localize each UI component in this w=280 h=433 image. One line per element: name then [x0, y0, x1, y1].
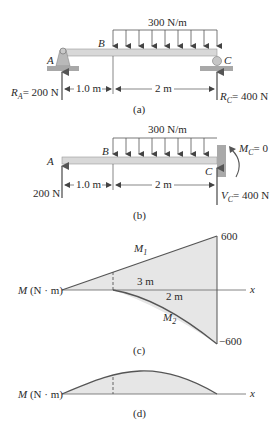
dim-ab-label: 1.0 m [76, 82, 102, 94]
moment-arc-icon [232, 150, 239, 177]
dim-ab-label-b: 1.0 m [76, 178, 102, 190]
dim-bc-label: 2 m [155, 82, 172, 94]
caption-a: (a) [133, 103, 146, 116]
figure-c: M1 M2 3 m 2 m 600 −600 M (N · m) x (c) [17, 230, 255, 357]
reaction-a-label: RA= 200 N [10, 86, 59, 101]
caption-d: (d) [133, 407, 146, 420]
figure-a: 300 N/m A B C RA= 200 N RC= 400 N [10, 16, 268, 116]
cut-section [217, 145, 226, 177]
point-a-label-b: A [46, 155, 54, 167]
distributed-load-arrows-b [113, 138, 217, 154]
point-b-label: B [98, 37, 105, 49]
point-c-label: C [224, 54, 232, 66]
min-value-label: −600 [219, 335, 242, 347]
beam [62, 49, 217, 56]
point-b-label-b: B [102, 145, 109, 157]
ground-c [200, 66, 233, 71]
length-3m-label: 3 m [137, 275, 154, 287]
length-2m-label: 2 m [166, 290, 183, 302]
max-value-label: 600 [221, 230, 238, 242]
axis-label-c: M (N · m) [17, 284, 63, 297]
point-c-label-b: C [205, 165, 213, 177]
moment-c-label: MC= 0 [238, 142, 268, 157]
distributed-load-label: 300 N/m [148, 16, 187, 28]
force-a-label: 200 N [33, 187, 60, 199]
figure-b: 300 N/m A B C MC= 0 200 N VC= 400 N [33, 123, 269, 222]
beam-moment-diagram: 300 N/m A B C RA= 200 N RC= 400 N [0, 0, 280, 433]
x-var-c: x [249, 283, 255, 295]
m1-label: M1 [133, 242, 147, 257]
caption-c: (c) [133, 344, 146, 357]
reaction-c-label: RC= 400 N [219, 90, 268, 105]
beam-segment [62, 157, 217, 164]
x-var-d: x [249, 387, 255, 399]
figure-d: M (N · m) x (d) [17, 371, 255, 420]
dim-bc-label-b: 2 m [155, 178, 172, 190]
distributed-load-label-b: 300 N/m [148, 123, 187, 135]
caption-b: (b) [133, 209, 146, 222]
axis-label-d: M (N · m) [17, 388, 63, 401]
ground-a [47, 66, 79, 71]
shear-c-label: VC= 400 N [221, 189, 269, 204]
roller-support-c [213, 57, 222, 66]
point-a-label: A [46, 54, 54, 66]
distributed-load-arrows [113, 30, 217, 46]
